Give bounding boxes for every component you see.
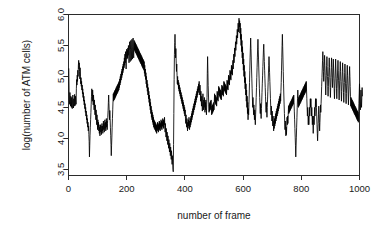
x-tick-label: 1000 <box>349 183 370 194</box>
y-tick-label: 5.0 <box>55 70 66 83</box>
y-tick-label: 3.5 <box>55 163 66 176</box>
line-chart: 02004006008001000 3.54.04.55.05.56.0 num… <box>0 0 378 235</box>
x-axis-title: number of frame <box>177 210 251 221</box>
x-tick-label: 400 <box>177 183 193 194</box>
y-tick-label: 5.5 <box>55 39 66 52</box>
x-tick-label: 200 <box>119 183 135 194</box>
x-tick-label: 0 <box>66 183 71 194</box>
y-tick-label: 4.0 <box>55 132 66 145</box>
x-tick-label: 800 <box>293 183 309 194</box>
y-axis-title: log(number of ATM cells) <box>21 40 32 150</box>
y-tick-label: 6.0 <box>55 8 66 21</box>
chart-figure: 02004006008001000 3.54.04.55.05.56.0 num… <box>0 0 378 235</box>
y-tick-label: 4.5 <box>55 101 66 114</box>
x-tick-label: 600 <box>235 183 251 194</box>
